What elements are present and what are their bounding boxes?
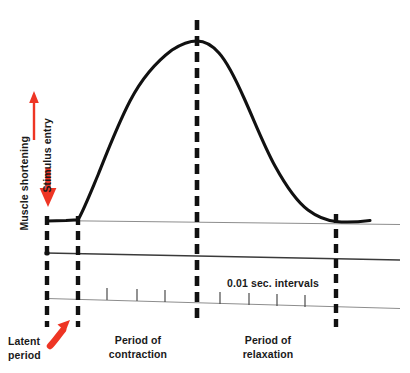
label-period-relaxation-line1: Period of (228, 334, 308, 347)
label-time-intervals: 0.01 sec. intervals (218, 277, 328, 290)
label-period-contraction-line1: Period of (98, 334, 178, 347)
label-stimulus-entry: Stimulus entry (41, 118, 54, 192)
label-latent-period-line1: Latent (8, 335, 40, 348)
myogram-figure (0, 0, 410, 373)
label-period-relaxation-line2: relaxation (228, 348, 308, 361)
label-period-contraction-line2: contraction (98, 348, 178, 361)
figure-background (0, 0, 410, 373)
label-latent-period-line2: period (8, 349, 41, 362)
label-muscle-shortening: Muscle shortening (18, 136, 31, 230)
